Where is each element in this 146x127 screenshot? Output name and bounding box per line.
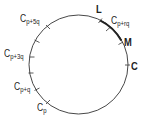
label-cp3q-sub: p+3q (10, 53, 23, 60)
label-cpq: Cp+q (14, 82, 30, 93)
tick-m (119, 42, 124, 45)
label-cprq-sub: p+rq (117, 20, 129, 27)
label-cp5q-sub: p+5q (26, 18, 39, 25)
label-cp5q: Cp+5q (20, 14, 40, 25)
label-cp-sub: p (43, 107, 46, 114)
label-cp3q: Cp+3q (4, 49, 24, 60)
label-cprq: Cp+rq (111, 16, 129, 27)
label-c: C (131, 61, 138, 72)
label-cp: Cp (37, 103, 46, 114)
label-l: L (96, 4, 102, 15)
tick-cprq (106, 28, 110, 32)
label-m: M (124, 37, 132, 48)
label-cpq-sub: p+q (20, 86, 30, 93)
